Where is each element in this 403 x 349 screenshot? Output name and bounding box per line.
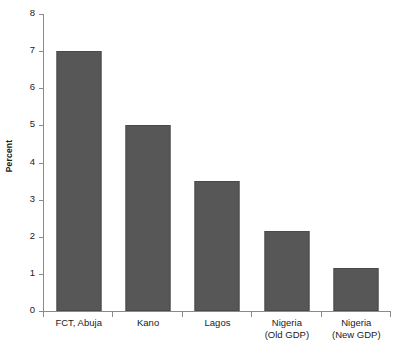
bar [126,125,171,311]
bar [195,181,240,311]
y-axis-tick-label: 2 [0,230,35,241]
x-axis-category-label-line: (New GDP) [322,329,391,341]
y-axis-tick-label: 6 [0,81,35,92]
y-axis-tick-label: 3 [0,193,35,204]
x-axis-category-label: Nigeria(New GDP) [322,317,391,340]
bar-slot [252,14,321,311]
bar [56,51,101,311]
x-axis-spine [43,311,391,312]
x-axis-category-label: Lagos [183,317,252,329]
bar-series [44,14,391,311]
bar [334,268,379,311]
plot-area: 012345678 [44,14,391,311]
x-axis-labels: FCT, AbujaKanoLagosNigeria(Old GDP)Niger… [44,317,391,347]
bar-slot [44,14,113,311]
x-axis-category-label: FCT, Abuja [44,317,113,329]
x-axis-category-label-line: Nigeria [252,317,321,329]
x-axis-category-label: Nigeria(Old GDP) [252,317,321,340]
y-axis-tick-label: 4 [0,156,35,167]
y-axis-tick-label: 8 [0,7,35,18]
bar-slot [183,14,252,311]
bar-chart: Percent 012345678 FCT, AbujaKanoLagosNig… [0,0,403,349]
bar-slot [322,14,391,311]
y-axis-tick-label: 1 [0,267,35,278]
bar [264,231,309,311]
y-axis-tick-label: 5 [0,118,35,129]
x-axis-category-label-line: (Old GDP) [252,329,321,341]
x-axis-category-label-line: Kano [113,317,182,329]
x-axis-category-label-line: Lagos [183,317,252,329]
x-axis-category-label: Kano [113,317,182,329]
x-axis-category-label-line: Nigeria [322,317,391,329]
y-axis-tick-label: 7 [0,44,35,55]
y-axis-tick-label: 0 [0,304,35,315]
x-axis-category-label-line: FCT, Abuja [44,317,113,329]
bar-slot [113,14,182,311]
